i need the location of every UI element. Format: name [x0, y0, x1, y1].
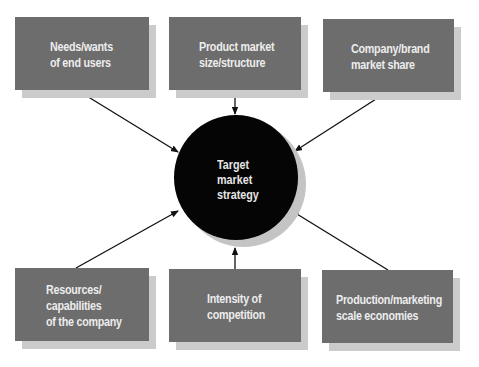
- arrow-company-share-to-center: [295, 92, 387, 151]
- factor-box-needs: Needs/wants of end users: [15, 17, 149, 90]
- factor-label: Resources/ capabilities of the company: [46, 282, 122, 330]
- factor-box-competition: Intensity of competition: [169, 269, 301, 342]
- factor-label: Intensity of competition: [207, 291, 265, 323]
- factor-label: Production/marketing scale economies: [336, 292, 442, 324]
- center-label: Target market strategy: [217, 158, 259, 203]
- factor-box-resources: Resources/ capabilities of the company: [15, 268, 149, 341]
- factor-box-company-share: Company/brand market share: [323, 19, 454, 92]
- factor-label: Product market size/structure: [199, 39, 274, 71]
- arrow-scale-to-center: [292, 211, 388, 270]
- factor-box-scale: Production/marketing scale economies: [322, 270, 453, 343]
- factor-label: Company/brand market share: [351, 41, 429, 73]
- arrow-needs-to-center: [77, 90, 178, 152]
- diagram-canvas: Needs/wants of end users Product market …: [0, 0, 479, 367]
- factor-box-product-market: Product market size/structure: [169, 17, 301, 90]
- factor-label: Needs/wants of end users: [50, 39, 113, 71]
- arrow-resources-to-center: [76, 211, 178, 268]
- center-circle: Target market strategy: [174, 115, 298, 240]
